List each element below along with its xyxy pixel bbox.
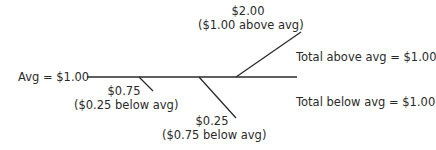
point-value: $0.75 [74,84,174,98]
total-above-label: Total above avg = $1.00 [296,50,436,64]
point-200-label: $2.00 ($1.00 above avg) [198,4,298,32]
point-value: $2.00 [198,4,298,18]
average-label: Avg = $1.00 [18,70,89,84]
point-diff: ($1.00 above avg) [198,18,298,32]
point-025-label: $0.25 ($0.75 below avg) [162,114,262,142]
point-075-label: $0.75 ($0.25 below avg) [74,84,174,112]
total-below-label: Total below avg = $1.00 [296,95,435,109]
point-value: $0.25 [162,114,262,128]
tick-200 [236,32,301,77]
point-diff: ($0.75 below avg) [162,128,262,142]
tick-025 [199,77,236,118]
point-diff: ($0.25 below avg) [74,98,174,112]
